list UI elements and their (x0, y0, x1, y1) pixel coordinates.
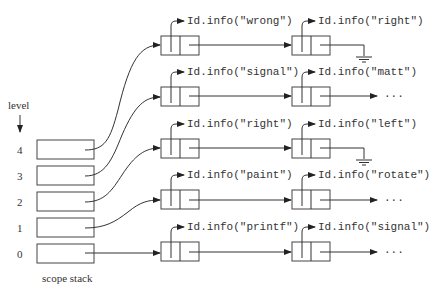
ellipsis: ··· (384, 90, 404, 102)
info-label: Id.info("printf") (187, 221, 299, 233)
info-label: Id.info("wrong") (187, 15, 293, 27)
ellipsis: ··· (384, 194, 404, 206)
info-label: Id.info("right") (318, 15, 424, 27)
info-label: Id.info("left") (318, 118, 417, 130)
info-label: Id.info("signal") (318, 221, 430, 233)
bucket-row-level-3: Id.info("signal") Id.info("matt") ··· (161, 66, 417, 106)
info-label: Id.info("rotate") (318, 169, 430, 181)
info-label: Id.info("matt") (318, 66, 417, 78)
bucket-row-level-2: Id.info("right") Id.info("left") (161, 118, 417, 165)
pointer-level-2 (85, 148, 160, 202)
level-number: 1 (17, 222, 23, 234)
scope-stack-label: scope stack (42, 272, 93, 284)
bucket-row-level-4: Id.info("wrong") Id.info("right") (161, 15, 424, 62)
info-label: Id.info("signal") (187, 66, 299, 78)
level-number: 3 (17, 170, 23, 182)
info-label: Id.info("right") (187, 118, 293, 130)
level-number: 0 (17, 248, 23, 260)
bucket-row-level-1: Id.info("paint") Id.info("rotate") ··· (161, 169, 430, 209)
pointer-level-1 (85, 200, 160, 228)
bucket-row-level-0: Id.info("printf") Id.info("signal") ··· (161, 221, 430, 261)
level-label: level (8, 99, 29, 111)
level-number: 4 (17, 144, 23, 156)
ellipsis: ··· (384, 246, 404, 258)
info-label: Id.info("paint") (187, 169, 293, 181)
scope-stack-diagram: level 4 3 2 1 0 scope stack Id.info("wro… (0, 0, 438, 295)
level-number: 2 (17, 196, 23, 208)
pointer-level-3 (85, 97, 160, 176)
